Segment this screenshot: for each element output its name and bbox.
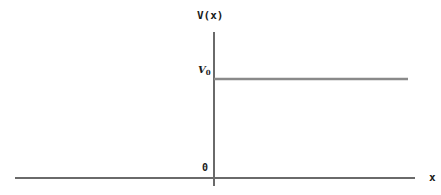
x-axis-label: x	[429, 171, 436, 184]
step-level-subscript: 0	[206, 68, 211, 77]
y-axis-label: V(x)	[197, 9, 224, 22]
step-potential-diagram: V(x) V0 0 x	[0, 0, 441, 195]
step-level-label: V0	[198, 64, 211, 77]
origin-label: 0	[202, 162, 208, 173]
